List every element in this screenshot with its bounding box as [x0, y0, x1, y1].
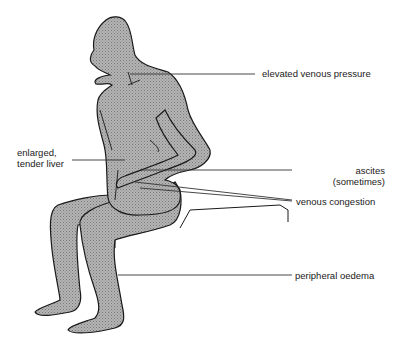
label-ascites-line1: ascites: [320, 165, 385, 176]
torso-head: [90, 17, 210, 215]
label-ascites: ascites (sometimes): [320, 165, 385, 187]
label-liver-line2: tender liver: [17, 158, 64, 169]
label-liver-line1: enlarged,: [17, 147, 64, 158]
label-elevated-venous-pressure: elevated venous pressure: [262, 68, 371, 79]
label-venous-congestion: venous congestion: [296, 196, 375, 207]
label-ascites-line2: (sometimes): [320, 176, 385, 187]
label-enlarged-tender-liver: enlarged, tender liver: [17, 147, 64, 169]
label-peripheral-oedema: peripheral oedema: [295, 270, 374, 281]
